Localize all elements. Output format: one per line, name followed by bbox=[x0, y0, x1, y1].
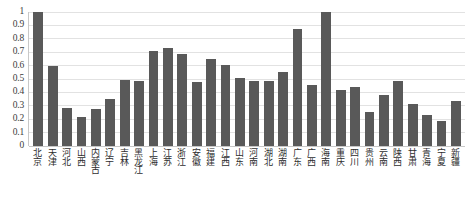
x-axis-tick: 重庆 bbox=[333, 148, 347, 206]
bar bbox=[307, 85, 317, 146]
x-axis-tick: 内蒙古 bbox=[88, 148, 102, 206]
y-axis: 10.90.80.70.60.50.40.30.20.10 bbox=[0, 12, 27, 146]
x-axis-tick: 黑龙江 bbox=[131, 148, 145, 206]
bar-slot bbox=[406, 12, 420, 146]
x-axis-tick: 安徽 bbox=[188, 148, 202, 206]
x-axis-tick: 广西 bbox=[304, 148, 318, 206]
bar-slot bbox=[377, 12, 391, 146]
bar-slot bbox=[391, 12, 405, 146]
x-axis-tick-label: 江苏 bbox=[162, 148, 171, 165]
x-axis-tick-label: 吉林 bbox=[119, 148, 128, 165]
y-axis-tick-label: 1 bbox=[19, 7, 24, 17]
bar bbox=[393, 81, 403, 146]
bar-slot bbox=[189, 12, 203, 146]
bar bbox=[77, 117, 87, 146]
bar-slot bbox=[276, 12, 290, 146]
x-axis-tick: 吉林 bbox=[116, 148, 130, 206]
bar bbox=[206, 59, 216, 146]
x-axis-tick: 河北 bbox=[59, 148, 73, 206]
y-axis-tick-label: 0.1 bbox=[13, 128, 24, 138]
bar-slot bbox=[89, 12, 103, 146]
x-axis-tick-label: 河北 bbox=[61, 148, 70, 165]
bar-slot bbox=[218, 12, 232, 146]
bar bbox=[149, 51, 159, 146]
bar bbox=[422, 115, 432, 146]
bar-slot bbox=[117, 12, 131, 146]
bar-slot bbox=[233, 12, 247, 146]
x-axis-tick: 四川 bbox=[347, 148, 361, 206]
bar bbox=[437, 121, 447, 146]
x-axis-tick-label: 上海 bbox=[148, 148, 157, 165]
bar bbox=[235, 78, 245, 146]
bar-slot bbox=[161, 12, 175, 146]
x-axis-tick: 贵州 bbox=[361, 148, 375, 206]
x-axis-tick-label: 海南 bbox=[321, 148, 330, 165]
x-axis-tick: 浙江 bbox=[174, 148, 188, 206]
bar bbox=[379, 95, 389, 146]
x-axis-tick-label: 山西 bbox=[76, 148, 85, 165]
bar-slot bbox=[420, 12, 434, 146]
x-axis-tick-label: 新疆 bbox=[450, 148, 459, 165]
bar-slot bbox=[348, 12, 362, 146]
x-axis-tick: 甘肃 bbox=[405, 148, 419, 206]
x-axis-tick: 广东 bbox=[289, 148, 303, 206]
x-axis-tick: 青海 bbox=[419, 148, 433, 206]
x-axis-tick: 河南 bbox=[246, 148, 260, 206]
y-axis-tick-label: 0.8 bbox=[13, 34, 24, 44]
x-axis-tick-label: 天津 bbox=[47, 148, 56, 165]
bar-slot bbox=[74, 12, 88, 146]
bar bbox=[264, 81, 274, 146]
x-axis-tick: 宁夏 bbox=[433, 148, 447, 206]
x-axis-tick-label: 四川 bbox=[350, 148, 359, 165]
x-axis-tick-label: 辽宁 bbox=[105, 148, 114, 165]
y-axis-tick-label: 0.2 bbox=[13, 114, 24, 124]
y-axis-tick-label: 0.7 bbox=[13, 47, 24, 57]
bar bbox=[62, 108, 72, 146]
bar-slot bbox=[334, 12, 348, 146]
bar bbox=[48, 66, 58, 146]
bar-slot bbox=[262, 12, 276, 146]
y-axis-tick-label: 0.4 bbox=[13, 88, 24, 98]
x-axis-tick: 湖北 bbox=[261, 148, 275, 206]
y-axis-tick-label: 0.3 bbox=[13, 101, 24, 111]
bar-slot bbox=[146, 12, 160, 146]
x-axis-tick-label: 湖北 bbox=[263, 148, 272, 165]
bar-slot bbox=[449, 12, 463, 146]
x-axis-tick: 上海 bbox=[145, 148, 159, 206]
x-axis-tick-label: 陕西 bbox=[393, 148, 402, 165]
x-axis-tick: 陕西 bbox=[390, 148, 404, 206]
x-axis-tick-label: 宁夏 bbox=[436, 148, 445, 165]
x-axis-tick: 江西 bbox=[217, 148, 231, 206]
x-axis-tick-label: 重庆 bbox=[335, 148, 344, 165]
bar-chart: 10.90.80.70.60.50.40.30.20.10 北京天津河北山西内蒙… bbox=[0, 0, 467, 209]
bar-slot bbox=[103, 12, 117, 146]
x-axis-tick-label: 青海 bbox=[422, 148, 431, 165]
x-axis-tick: 福建 bbox=[203, 148, 217, 206]
y-axis-tick-label: 0 bbox=[19, 141, 24, 151]
x-axis-tick-label: 河南 bbox=[249, 148, 258, 165]
bar bbox=[192, 82, 202, 146]
x-axis-tick-label: 福建 bbox=[205, 148, 214, 165]
bar bbox=[105, 99, 115, 146]
x-axis-tick-label: 江西 bbox=[220, 148, 229, 165]
bar bbox=[365, 112, 375, 146]
x-axis-tick-label: 黑龙江 bbox=[133, 148, 142, 174]
bar bbox=[350, 87, 360, 146]
x-axis-tick: 新疆 bbox=[448, 148, 462, 206]
x-axis-tick: 辽宁 bbox=[102, 148, 116, 206]
x-axis-tick-label: 广西 bbox=[306, 148, 315, 165]
x-axis-tick: 江苏 bbox=[160, 148, 174, 206]
bar bbox=[91, 109, 101, 146]
bar bbox=[278, 72, 288, 146]
bar bbox=[163, 48, 173, 146]
bar bbox=[408, 104, 418, 146]
bar bbox=[451, 101, 461, 146]
bar bbox=[321, 12, 331, 146]
x-axis-tick-label: 安徽 bbox=[191, 148, 200, 165]
x-axis-tick: 云南 bbox=[376, 148, 390, 206]
y-axis-tick-label: 0.6 bbox=[13, 61, 24, 71]
bar bbox=[33, 12, 43, 146]
x-axis-tick-label: 广东 bbox=[292, 148, 301, 165]
bar-slot bbox=[132, 12, 146, 146]
bar-slot bbox=[319, 12, 333, 146]
